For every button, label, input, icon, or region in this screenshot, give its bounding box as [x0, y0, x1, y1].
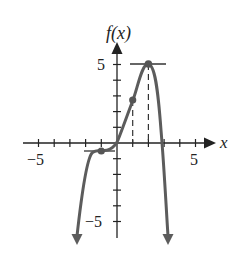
function-graph: f(x) x −5 5 5 −5: [0, 0, 246, 257]
x-tick-label-neg5: −5: [27, 151, 44, 168]
point-1: [129, 96, 136, 103]
curve-arrow-right-icon: [163, 234, 174, 245]
x-axis-label: x: [219, 133, 228, 152]
marked-points: [98, 60, 152, 154]
point-neg1: [98, 147, 105, 154]
y-axis-arrow-icon: [112, 42, 123, 54]
curve-arrow-left-icon: [72, 234, 83, 245]
x-tick-label-5: 5: [190, 151, 198, 168]
x-axis-arrow-icon: [204, 138, 216, 149]
function-curve: [77, 64, 168, 236]
y-axis-label: f(x): [106, 23, 131, 44]
point-max: [145, 60, 153, 68]
y-tick-label-neg5: −5: [85, 213, 102, 230]
y-tick-label-5: 5: [97, 56, 105, 73]
